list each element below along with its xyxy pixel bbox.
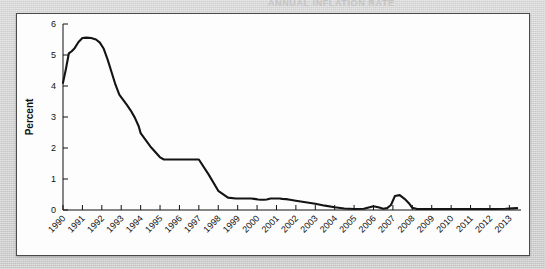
x-tick-label: 1993 bbox=[104, 213, 125, 234]
x-tick-label: 2006 bbox=[357, 213, 378, 234]
y-axis-ticks bbox=[63, 24, 68, 210]
clipped-heading-text: ANNUAL INFLATION RATE bbox=[268, 0, 498, 8]
x-tick-label: 2002 bbox=[279, 213, 300, 234]
x-tick-label: 2011 bbox=[454, 213, 475, 234]
x-tick-label: 1996 bbox=[163, 213, 184, 234]
x-tick-label: 1994 bbox=[124, 213, 145, 234]
x-tick-label: 2005 bbox=[337, 213, 358, 234]
x-tick-label: 2013 bbox=[493, 213, 514, 234]
data-series-line bbox=[63, 38, 517, 209]
x-tick-label: 2010 bbox=[434, 213, 455, 234]
x-tick-label: 2008 bbox=[396, 213, 417, 234]
x-tick-label: 1995 bbox=[143, 213, 164, 234]
x-tick-label: 2001 bbox=[260, 213, 281, 234]
y-tick-label: 0 bbox=[51, 205, 56, 215]
x-tick-label: 1990 bbox=[46, 213, 67, 234]
chart-panel: 0123456 19901991199219931994199519961997… bbox=[16, 13, 530, 256]
x-tick-label: 2004 bbox=[318, 213, 339, 234]
x-tick-label: 2012 bbox=[473, 213, 494, 234]
x-tick-label: 2000 bbox=[240, 213, 261, 234]
x-tick-label: 1999 bbox=[221, 213, 242, 234]
y-axis-title: Percent bbox=[24, 98, 35, 135]
x-tick-label: 1992 bbox=[85, 213, 106, 234]
x-tick-label: 2007 bbox=[376, 213, 397, 234]
y-tick-label: 5 bbox=[51, 50, 56, 60]
x-tick-label: 1997 bbox=[182, 213, 203, 234]
y-tick-label: 6 bbox=[51, 19, 56, 29]
y-tick-label: 2 bbox=[51, 143, 56, 153]
y-axis-tick-labels: 0123456 bbox=[51, 19, 56, 215]
line-chart: 0123456 19901991199219931994199519961997… bbox=[17, 14, 529, 255]
x-tick-label: 2003 bbox=[298, 213, 319, 234]
x-axis-tick-labels: 1990199119921993199419951996199719981999… bbox=[46, 213, 514, 234]
y-tick-label: 4 bbox=[51, 81, 56, 91]
x-tick-label: 1991 bbox=[66, 213, 87, 234]
x-tick-label: 2009 bbox=[415, 213, 436, 234]
x-tick-label: 1998 bbox=[201, 213, 222, 234]
y-tick-label: 3 bbox=[51, 112, 56, 122]
y-tick-label: 1 bbox=[51, 174, 56, 184]
